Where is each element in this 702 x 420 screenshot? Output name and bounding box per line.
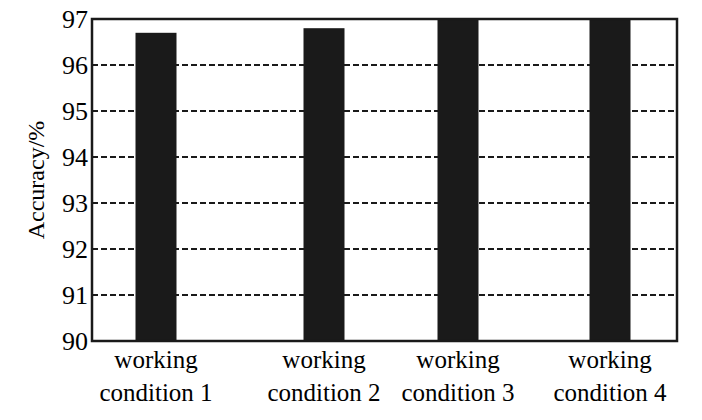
x-tick-label-line1: working xyxy=(416,346,500,373)
bar-chart: 9091929394959697workingcondition 1workin… xyxy=(0,0,702,420)
x-tick-label-line1: working xyxy=(114,346,198,373)
x-tick-label-line1: working xyxy=(282,346,366,373)
x-tick-label-line2: condition 1 xyxy=(99,379,212,406)
y-tick-label: 92 xyxy=(62,235,88,264)
y-tick-label: 90 xyxy=(62,327,88,356)
y-tick-label: 97 xyxy=(62,5,88,34)
y-axis-label: Accuracy/% xyxy=(23,121,49,240)
bar xyxy=(304,28,345,341)
y-tick-label: 95 xyxy=(62,97,88,126)
x-tick-label-line2: condition 2 xyxy=(267,379,380,406)
x-tick-label-line2: condition 3 xyxy=(401,379,514,406)
y-tick-label: 96 xyxy=(62,51,88,80)
y-tick-label: 94 xyxy=(62,143,88,172)
y-tick-label: 91 xyxy=(62,281,88,310)
y-tick-label: 93 xyxy=(62,189,88,218)
x-tick-label-line1: working xyxy=(568,346,652,373)
x-tick-label-line2: condition 4 xyxy=(553,379,667,406)
bar xyxy=(438,19,479,341)
bar xyxy=(136,33,177,341)
plot-frame xyxy=(92,19,677,341)
bar xyxy=(590,19,631,341)
